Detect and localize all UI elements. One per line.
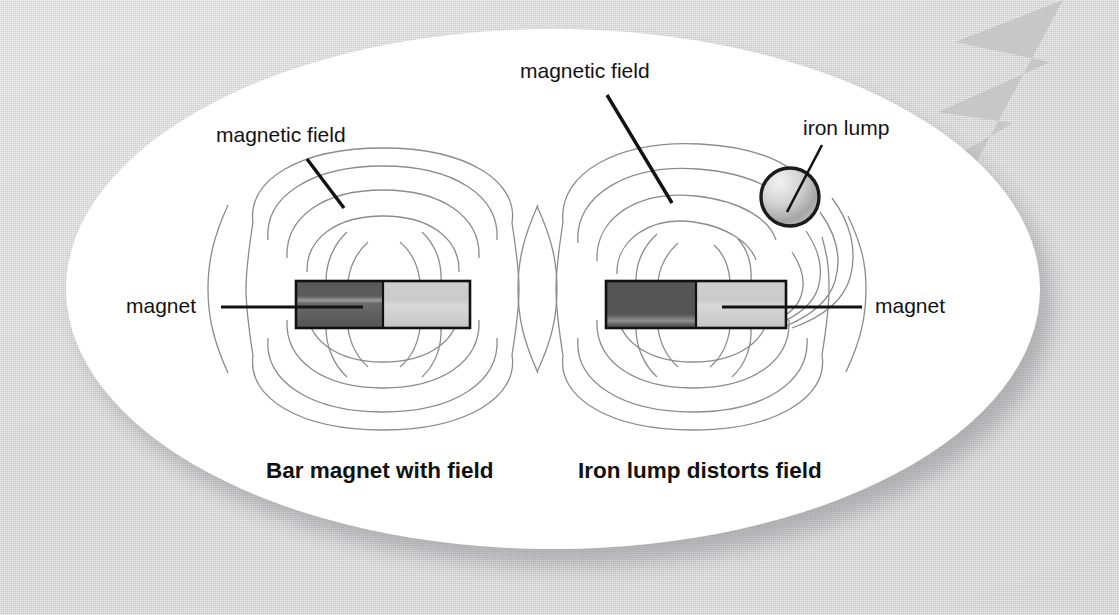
field-line bbox=[246, 222, 253, 356]
field-line bbox=[846, 216, 866, 372]
field-line bbox=[253, 355, 513, 430]
field-line bbox=[537, 206, 557, 372]
label-left-magnetic-field: magnetic field bbox=[216, 124, 346, 145]
iron-lump-sphere bbox=[761, 168, 819, 226]
magnet-north-half bbox=[296, 281, 383, 328]
field-line bbox=[636, 234, 657, 281]
field-line bbox=[422, 328, 441, 377]
label-left-magnet: magnet bbox=[126, 295, 196, 316]
right-magnet-bar bbox=[606, 281, 786, 328]
field-line bbox=[307, 216, 459, 272]
field-line bbox=[518, 205, 538, 373]
magnet-north-half bbox=[606, 281, 696, 328]
field-line bbox=[348, 242, 368, 281]
field-line bbox=[268, 166, 497, 240]
field-line bbox=[597, 195, 776, 261]
field-line bbox=[563, 355, 823, 430]
field-line bbox=[268, 338, 497, 412]
left-panel bbox=[208, 148, 557, 430]
label-right-magnetic-field: magnetic field bbox=[520, 60, 650, 81]
magnet-south-half bbox=[383, 281, 470, 328]
field-line bbox=[400, 242, 420, 281]
caption-left-panel: Bar magnet with field bbox=[266, 458, 494, 484]
field-line bbox=[208, 205, 228, 373]
magnet-south-half bbox=[696, 281, 786, 328]
field-line bbox=[658, 243, 678, 281]
right-panel bbox=[518, 95, 866, 430]
field-line bbox=[732, 328, 751, 377]
field-line bbox=[597, 320, 789, 388]
field-line bbox=[578, 338, 807, 412]
field-line bbox=[287, 320, 479, 388]
field-line bbox=[714, 245, 730, 281]
field-line bbox=[738, 239, 751, 281]
label-right-magnet: magnet bbox=[875, 295, 945, 316]
caption-right-panel: Iron lump distorts field bbox=[578, 458, 822, 484]
field-line bbox=[326, 232, 347, 281]
field-line bbox=[422, 232, 441, 281]
label-iron-lump: iron lump bbox=[803, 117, 889, 138]
field-line bbox=[253, 148, 513, 223]
right-field-leader-line bbox=[607, 95, 672, 203]
left-magnet-bar bbox=[296, 281, 470, 328]
field-line bbox=[287, 190, 479, 258]
figure-stage: magnetic field magnet magnetic field iro… bbox=[0, 0, 1119, 615]
